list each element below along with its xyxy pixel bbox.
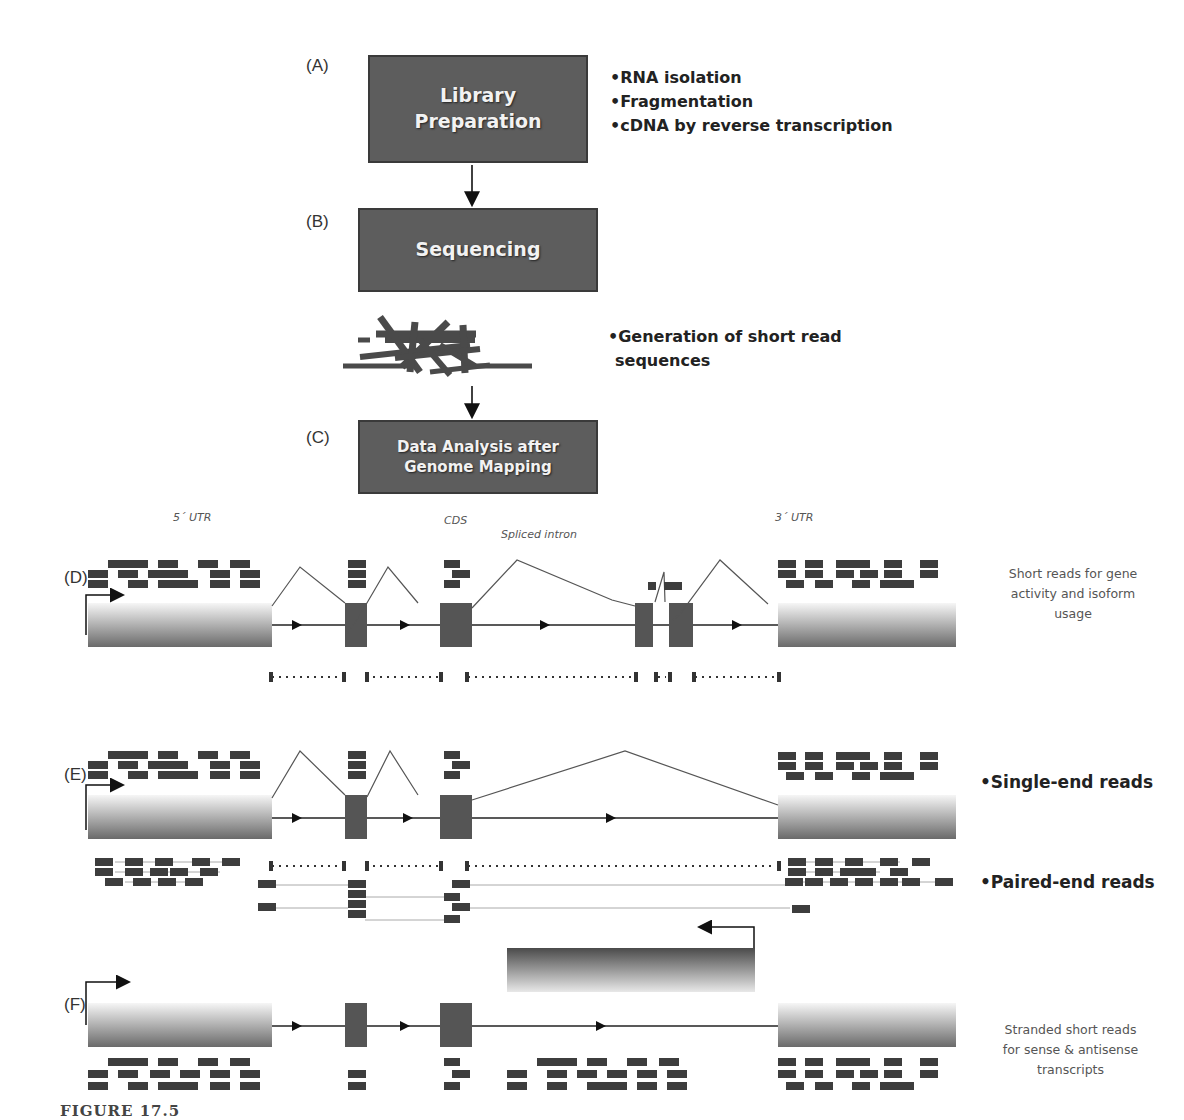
exon-4b bbox=[669, 603, 693, 647]
panel-d-gene-model bbox=[86, 560, 956, 682]
utr3-block bbox=[778, 603, 956, 647]
fragmented-reads-icon bbox=[343, 317, 532, 375]
panel-f-gene-model bbox=[86, 927, 956, 1090]
utr3-block bbox=[778, 795, 956, 839]
panel-e-gene-model bbox=[86, 751, 956, 923]
antisense-transcript-block bbox=[507, 948, 755, 992]
exon-4a bbox=[635, 603, 653, 647]
utr5-block bbox=[88, 603, 272, 647]
utr5-block bbox=[88, 795, 272, 839]
exon-3 bbox=[440, 603, 472, 647]
